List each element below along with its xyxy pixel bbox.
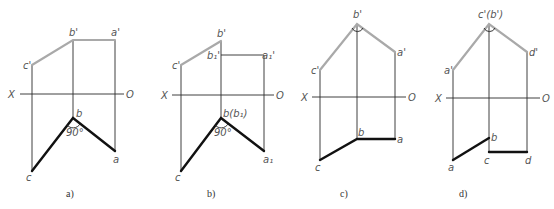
caption-d: d) <box>459 188 467 200</box>
top-view-polyline <box>32 118 115 171</box>
label-c: c <box>175 172 181 183</box>
label-b-b1: b(b₁) <box>223 108 248 119</box>
axis-o-label: O <box>408 92 416 103</box>
front-view-polyline <box>453 24 527 70</box>
axis-o-label: O <box>126 89 134 100</box>
caption-b: b) <box>207 188 215 200</box>
label-a-prime: a' <box>444 65 453 76</box>
panel-c: X O b' a' c' b a c c) <box>300 9 416 200</box>
label-c-prime: c' <box>311 65 319 76</box>
label-a1: a₁ <box>263 154 273 165</box>
label-c-prime: c' <box>23 60 31 71</box>
caption-a: a) <box>66 188 74 200</box>
axis-o-label: O <box>542 93 550 104</box>
label-c: c <box>26 172 32 183</box>
label-a-prime: a' <box>111 27 120 38</box>
label-d-prime: d' <box>529 47 538 58</box>
label-c-prime: c' <box>172 60 180 71</box>
label-b-prime: b' <box>353 9 362 20</box>
label-a1-prime: a₁' <box>262 50 275 61</box>
label-c: c <box>315 162 321 173</box>
label-b-prime: b' <box>69 27 78 38</box>
panel-a: X O c' b' a' b 90° a c a) <box>7 27 134 200</box>
top-view-polyline <box>181 118 264 171</box>
label-b: b <box>491 132 497 143</box>
label-b: b <box>76 108 82 119</box>
front-view-polyline <box>32 40 115 65</box>
label-b-prime: b' <box>217 28 226 39</box>
axis-o-label: O <box>276 90 284 101</box>
axis-x-label: X <box>7 89 16 100</box>
label-c-prime-b-prime: c'(b') <box>478 9 503 20</box>
label-angle: 90° <box>214 127 232 138</box>
top-view-polyline <box>320 139 395 160</box>
caption-c: c) <box>340 188 348 200</box>
label-d: d <box>525 155 532 166</box>
label-angle: 90° <box>66 127 84 138</box>
front-view-polyline <box>320 24 395 70</box>
label-c: c <box>484 155 490 166</box>
axis-x-label: X <box>160 90 169 101</box>
label-b1-prime: b₁' <box>207 50 220 61</box>
label-a: a <box>397 134 403 145</box>
label-a: a <box>113 154 119 165</box>
axis-x-label: X <box>300 92 309 103</box>
orthographic-projection-figure: X O c' b' a' b 90° a c a) X O c' b' b₁' … <box>0 0 554 209</box>
label-a-prime: a' <box>397 47 406 58</box>
axis-x-label: X <box>434 93 443 104</box>
label-a: a <box>448 162 454 173</box>
label-b: b <box>358 127 364 138</box>
panel-b: X O c' b' b₁' a₁' b(b₁) 90° a₁ c b) <box>160 28 284 200</box>
panel-d: X O c'(b') d' a' b c d a d) <box>434 9 550 200</box>
